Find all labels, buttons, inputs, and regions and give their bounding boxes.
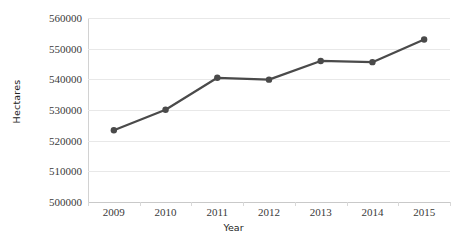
- y-axis-tick-label: 540000: [18, 73, 82, 85]
- data-point-marker: 2012: 539900: [266, 76, 272, 82]
- series-line-hectares: 2009: 5234002010: 5301002011: 5405002012…: [88, 18, 450, 202]
- x-axis-tick-label: 2010: [155, 206, 177, 218]
- x-axis-title-text: Year: [223, 222, 243, 233]
- y-axis-tick-labels: 5000005100005200005300005400005500005600…: [16, 18, 82, 202]
- x-axis-tick-label: 2012: [258, 206, 280, 218]
- x-axis-tick-label: 2013: [310, 206, 332, 218]
- x-axis-tick-mark: [295, 202, 296, 206]
- x-axis-title: Year: [0, 222, 467, 233]
- data-point-marker: 2011: 540500: [214, 75, 220, 81]
- x-axis-tick-mark: [191, 202, 192, 206]
- x-axis-tick-label: 2009: [103, 206, 125, 218]
- x-axis-tick-label: 2014: [361, 206, 383, 218]
- y-axis-tick-label: 530000: [18, 104, 82, 116]
- data-point-marker: 2013: 546000: [318, 58, 324, 64]
- y-axis-tick-label: 550000: [18, 43, 82, 55]
- x-axis-tick-mark: [450, 202, 451, 206]
- x-axis-tick-mark: [243, 202, 244, 206]
- x-axis-tick-label: 2015: [413, 206, 435, 218]
- y-axis-tick-label: 560000: [18, 12, 82, 24]
- y-axis-tick-label: 510000: [18, 165, 82, 177]
- x-axis-tick-label: 2011: [206, 206, 228, 218]
- data-point-marker: 2015: 553000: [421, 36, 427, 42]
- data-point-marker: 2014: 545600: [369, 59, 375, 65]
- x-axis-tick-mark: [88, 202, 89, 206]
- y-axis-tick-label: 520000: [18, 135, 82, 147]
- plot-area: 2009: 5234002010: 5301002011: 5405002012…: [88, 18, 450, 202]
- x-axis-tick-mark: [398, 202, 399, 206]
- line-chart: Hectares 5000005100005200005300005400005…: [0, 0, 467, 246]
- data-point-marker: 2009: 523400: [111, 127, 117, 133]
- x-axis-tick-labels: 2009201020112012201320142015: [88, 206, 450, 222]
- x-axis-tick-mark: [140, 202, 141, 206]
- series-polyline: [114, 39, 424, 130]
- x-axis-line: [88, 202, 450, 203]
- y-axis-tick-label: 500000: [18, 196, 82, 208]
- x-axis-tick-mark: [347, 202, 348, 206]
- data-point-marker: 2010: 530100: [162, 106, 168, 112]
